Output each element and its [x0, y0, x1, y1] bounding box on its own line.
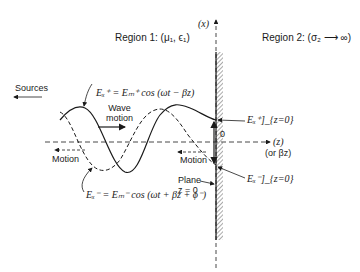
- wave-motion-line1: Wave: [106, 103, 133, 113]
- sources-label: Sources: [15, 84, 48, 93]
- reflected-boundary-label: Eₓ⁻]_{z=0}: [247, 174, 293, 184]
- incident-leader: [84, 84, 92, 106]
- region2-label: Region 2: (σ₂ ⟶ ∞): [262, 33, 351, 43]
- plane-label-line1: Plane: [178, 175, 201, 185]
- origin-label: 0: [220, 130, 225, 139]
- z-axis-alt-label: (or βz): [265, 149, 291, 158]
- reflected-equation-lhs: Eₓ⁻: [86, 189, 100, 200]
- region1-label: Region 1: (μ₁, ϵ₁): [115, 33, 190, 43]
- reflected-equation: Eₓ⁻ = Eₘ⁻ cos (ωt + βz + ϕ⁻): [86, 190, 206, 200]
- wave-motion-label: Wave motion: [106, 103, 133, 123]
- x-axis-label: (x): [198, 19, 209, 29]
- incident-boundary-label: Eₓ⁺]_{z=0}: [247, 115, 293, 125]
- motion-label-left: Motion: [52, 155, 79, 164]
- z-axis-label: (z): [273, 137, 284, 147]
- incident-equation: Eₓ⁺ = Eₘ⁺ cos (ωt − βz): [96, 88, 194, 98]
- incident-equation-lhs: Eₓ⁺: [96, 87, 110, 98]
- motion-label-right: Motion: [180, 156, 207, 165]
- conductor-wall: [216, 52, 223, 240]
- incident-equation-rhs: = Eₘ⁺ cos (ωt − βz): [112, 87, 194, 98]
- plane-leader: [200, 181, 214, 184]
- wave-motion-line2: motion: [106, 113, 133, 123]
- reflected-equation-rhs: = Eₘ⁻ cos (ωt + βz + ϕ⁻): [102, 189, 206, 200]
